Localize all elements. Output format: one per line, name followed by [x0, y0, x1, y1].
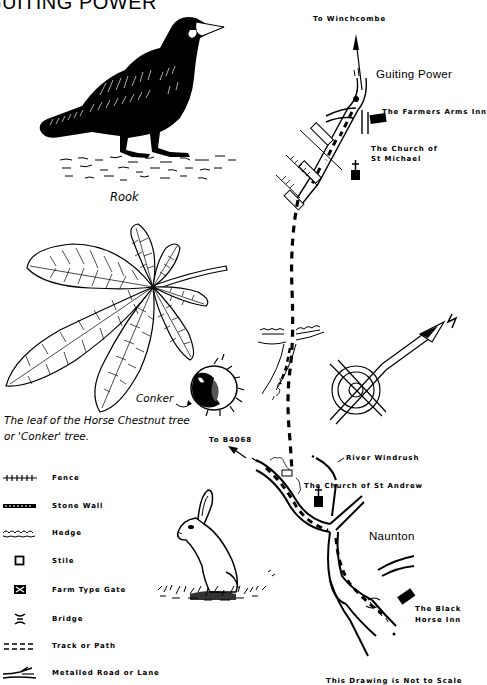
- legend-label: Metalled Road or Lane: [52, 669, 160, 677]
- rabbit-ear: [198, 490, 213, 524]
- leaflet-4: [153, 287, 208, 306]
- fence-symbol-icon: [0, 470, 40, 486]
- leaflet-3: [153, 244, 180, 287]
- legend-item-stone-wall: Stone Wall: [0, 497, 200, 515]
- hedge-symbol-icon: [0, 525, 40, 541]
- rook-caption: Rook: [110, 190, 139, 204]
- label-church-st-michael-line1: The Church of: [371, 145, 438, 153]
- legend-label: Bridge: [52, 615, 83, 623]
- legend-item-farm-gate: Farm Type Gate: [0, 581, 200, 599]
- conker-nut: [192, 373, 220, 408]
- winchcombe-arrow: [353, 34, 359, 50]
- label-farmers-arms-inn: The Farmers Arms Inn: [382, 108, 487, 116]
- label-to-b4068: To B4068: [209, 436, 252, 444]
- label-black-horse-line1: The Black: [415, 605, 461, 613]
- north-arrow: [420, 322, 444, 342]
- label-black-horse-line2: Horse Inn: [415, 616, 461, 624]
- river-windrush: [316, 458, 336, 480]
- church-st-michael-marker: [351, 160, 360, 180]
- stone-wall-symbol-icon: [0, 498, 40, 514]
- legend-label: Stile: [52, 557, 74, 565]
- legend-item-track: Track or Path: [0, 637, 200, 655]
- conker-caption: Conker: [136, 392, 173, 404]
- legend-item-hedge: Hedge: [0, 524, 200, 542]
- road-to-winchcombe: [356, 40, 362, 90]
- track-symbol-icon: [0, 638, 40, 654]
- page-title: GUITING POWER: [0, 0, 157, 14]
- legend-item-stile: Stile: [0, 552, 200, 570]
- rook-beak: [196, 22, 224, 36]
- stile-symbol-icon: [0, 553, 40, 569]
- leaf-caption-line2: or 'Conker' tree.: [4, 430, 89, 442]
- rook-body: [40, 17, 225, 158]
- legend-label: Fence: [52, 474, 80, 482]
- leaflet-5: [153, 287, 194, 360]
- legend-label: Track or Path: [52, 642, 116, 650]
- scale-note: This Drawing is Not to Scale: [326, 677, 462, 685]
- black-horse-inn-marker: [397, 588, 415, 605]
- bridge-symbol-icon: [0, 611, 40, 627]
- label-naunton: Naunton: [369, 530, 415, 542]
- track-main: [288, 200, 298, 470]
- legend-label: Farm Type Gate: [52, 586, 126, 594]
- legend-item-fence: Fence: [0, 469, 200, 487]
- label-church-st-andrew: The Church of St Andrew: [304, 482, 423, 490]
- compass-rose: [330, 332, 430, 424]
- label-guiting-power: Guiting Power: [376, 68, 452, 80]
- legend-label: Stone Wall: [52, 502, 103, 510]
- leaflet-2: [131, 224, 155, 287]
- legend-label: Hedge: [52, 529, 82, 537]
- leaf-caption-line1: The leaf of the Horse Chestnut tree: [4, 414, 190, 426]
- road-symbol-icon: [0, 665, 40, 681]
- legend-item-road: Metalled Road or Lane: [0, 664, 200, 682]
- farm-gate-symbol-icon: [0, 582, 40, 598]
- b4068-arrow: [228, 446, 238, 454]
- north-letter: [448, 314, 456, 328]
- label-to-winchcombe: To Winchcombe: [313, 15, 386, 23]
- label-river-windrush: River Windrush: [346, 454, 419, 462]
- label-church-st-michael-line2: St Michael: [371, 155, 421, 163]
- rook-ground: [60, 156, 236, 180]
- leaflet-1: [27, 244, 153, 289]
- leaflet-7: [6, 287, 153, 386]
- legend-item-bridge: Bridge: [0, 610, 200, 628]
